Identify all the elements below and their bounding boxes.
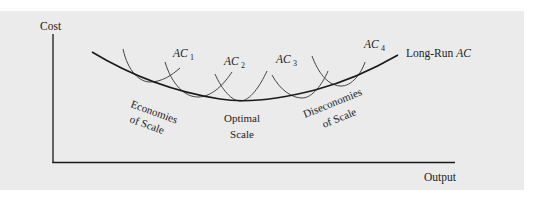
x-axis-label: Output <box>424 171 457 184</box>
svg-text:4: 4 <box>381 44 385 53</box>
svg-text:AC: AC <box>223 55 239 67</box>
svg-text:3: 3 <box>293 59 297 68</box>
svg-text:AC: AC <box>363 38 379 50</box>
short-run-ac-curve-2 <box>165 62 232 97</box>
y-axis-label: Cost <box>40 20 62 32</box>
cost-curve-diagram: Cost Output AC 1 AC 2 AC 3 AC 4 Long-Run… <box>0 0 540 199</box>
svg-text:2: 2 <box>241 61 245 70</box>
ac1-label: AC 1 <box>172 47 194 62</box>
svg-text:1: 1 <box>190 53 194 62</box>
axes <box>52 34 455 163</box>
ac4-label: AC 4 <box>363 38 385 53</box>
short-run-ac-curve-4a <box>312 56 365 86</box>
long-run-ac-label: Long-Run AC <box>406 47 471 60</box>
ac2-label: AC 2 <box>223 55 245 70</box>
ac3-label: AC 3 <box>275 53 297 68</box>
svg-text:AC: AC <box>172 47 188 59</box>
svg-text:AC: AC <box>275 53 291 65</box>
optimal-scale-label-line2: Scale <box>230 128 254 140</box>
optimal-scale-label-line1: Optimal <box>224 112 260 124</box>
short-run-ac-curve-3 <box>215 71 267 101</box>
short-run-curves <box>123 49 365 101</box>
